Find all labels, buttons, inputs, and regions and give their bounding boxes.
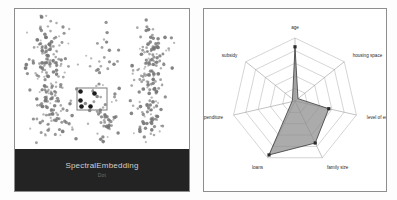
- radar-chart-area[interactable]: agehousing spacelevel of educationfamily…: [204, 9, 386, 191]
- scatter-point[interactable]: [47, 123, 50, 126]
- scatter-point[interactable]: [116, 60, 119, 63]
- scatter-point[interactable]: [162, 53, 164, 55]
- scatter-point[interactable]: [140, 53, 144, 57]
- scatter-point[interactable]: [44, 99, 48, 103]
- scatter-point[interactable]: [65, 109, 68, 112]
- radar-data-point[interactable]: [293, 45, 296, 48]
- scatter-point[interactable]: [108, 60, 111, 63]
- scatter-point[interactable]: [61, 107, 64, 110]
- selected-scatter-point[interactable]: [88, 104, 93, 109]
- scatter-point[interactable]: [39, 91, 41, 93]
- scatter-point[interactable]: [49, 30, 52, 33]
- scatter-point[interactable]: [146, 42, 150, 46]
- scatter-point[interactable]: [112, 63, 116, 67]
- scatter-point[interactable]: [28, 58, 31, 61]
- scatter-point[interactable]: [44, 46, 47, 49]
- scatter-point[interactable]: [46, 54, 50, 58]
- scatter-point[interactable]: [141, 46, 144, 49]
- scatter-point[interactable]: [40, 29, 43, 32]
- scatter-point[interactable]: [74, 137, 78, 141]
- scatter-point[interactable]: [59, 134, 61, 136]
- scatter-point[interactable]: [150, 128, 154, 132]
- scatter-point[interactable]: [54, 36, 57, 39]
- scatter-point[interactable]: [114, 115, 117, 118]
- scatter-point[interactable]: [144, 127, 147, 130]
- scatter-point[interactable]: [105, 31, 108, 34]
- scatter-point[interactable]: [57, 75, 60, 78]
- scatter-point[interactable]: [67, 42, 69, 44]
- scatter-point[interactable]: [43, 33, 47, 37]
- scatter-point[interactable]: [142, 75, 145, 78]
- scatter-point[interactable]: [153, 106, 155, 108]
- scatter-point[interactable]: [164, 95, 167, 98]
- scatter-point[interactable]: [64, 71, 66, 73]
- scatter-point[interactable]: [49, 113, 52, 116]
- scatter-point[interactable]: [155, 100, 157, 102]
- scatter-point[interactable]: [138, 128, 141, 131]
- scatter-point[interactable]: [46, 129, 49, 132]
- scatter-point[interactable]: [101, 46, 104, 49]
- scatter-point[interactable]: [43, 52, 46, 55]
- scatter-point[interactable]: [153, 125, 156, 128]
- scatter-point[interactable]: [60, 104, 63, 107]
- scatter-point[interactable]: [53, 90, 56, 93]
- scatter-point[interactable]: [90, 57, 92, 59]
- scatter-point[interactable]: [97, 112, 100, 115]
- scatter-point[interactable]: [143, 135, 146, 138]
- scatter-point[interactable]: [108, 124, 111, 127]
- scatter-point[interactable]: [106, 126, 110, 130]
- scatter-point[interactable]: [103, 56, 106, 59]
- scatter-point[interactable]: [99, 96, 102, 99]
- scatter-point[interactable]: [32, 61, 35, 64]
- scatter-point[interactable]: [136, 69, 139, 72]
- scatter-point[interactable]: [159, 78, 162, 81]
- scatter-point[interactable]: [132, 73, 134, 75]
- scatter-point[interactable]: [132, 105, 135, 108]
- scatter-point[interactable]: [70, 99, 73, 102]
- scatter-point[interactable]: [150, 133, 153, 136]
- scatter-point[interactable]: [50, 108, 53, 111]
- scatter-point[interactable]: [147, 28, 151, 32]
- scatter-point[interactable]: [49, 102, 51, 104]
- scatter-point[interactable]: [68, 102, 72, 106]
- radar-data-point[interactable]: [314, 141, 317, 144]
- scatter-point[interactable]: [160, 67, 162, 69]
- scatter-point[interactable]: [96, 42, 99, 45]
- scatter-point[interactable]: [150, 58, 154, 62]
- scatter-point[interactable]: [129, 99, 132, 102]
- scatter-point[interactable]: [95, 85, 97, 87]
- scatter-point[interactable]: [92, 100, 95, 103]
- radar-data-point[interactable]: [327, 107, 330, 110]
- scatter-point[interactable]: [35, 38, 39, 42]
- scatter-point[interactable]: [47, 25, 49, 27]
- scatter-point[interactable]: [100, 115, 103, 118]
- scatter-point[interactable]: [47, 90, 49, 92]
- scatter-point[interactable]: [130, 64, 134, 68]
- scatter-point[interactable]: [54, 56, 57, 59]
- selected-scatter-point[interactable]: [78, 98, 83, 103]
- scatter-point[interactable]: [130, 112, 134, 116]
- scatter-point[interactable]: [41, 52, 43, 54]
- scatter-point[interactable]: [146, 50, 149, 53]
- scatter-point[interactable]: [28, 88, 31, 91]
- scatter-point[interactable]: [61, 25, 64, 28]
- scatter-point[interactable]: [139, 105, 143, 109]
- scatter-point[interactable]: [139, 36, 142, 39]
- scatter-point[interactable]: [32, 117, 35, 120]
- scatter-point[interactable]: [161, 125, 164, 128]
- scatter-point[interactable]: [48, 92, 50, 94]
- scatter-point[interactable]: [148, 88, 151, 91]
- scatter-point[interactable]: [57, 58, 60, 61]
- scatter-point[interactable]: [60, 110, 62, 112]
- scatter-point[interactable]: [150, 49, 153, 52]
- scatter-point[interactable]: [144, 62, 147, 65]
- scatter-point[interactable]: [50, 117, 52, 119]
- scatter-point[interactable]: [40, 15, 44, 19]
- scatter-point[interactable]: [149, 103, 152, 106]
- scatter-point[interactable]: [56, 50, 58, 52]
- scatter-point[interactable]: [67, 122, 70, 125]
- scatter-point[interactable]: [102, 124, 105, 127]
- scatter-point[interactable]: [155, 56, 158, 59]
- scatter-point[interactable]: [44, 85, 47, 88]
- scatter-point[interactable]: [36, 46, 38, 48]
